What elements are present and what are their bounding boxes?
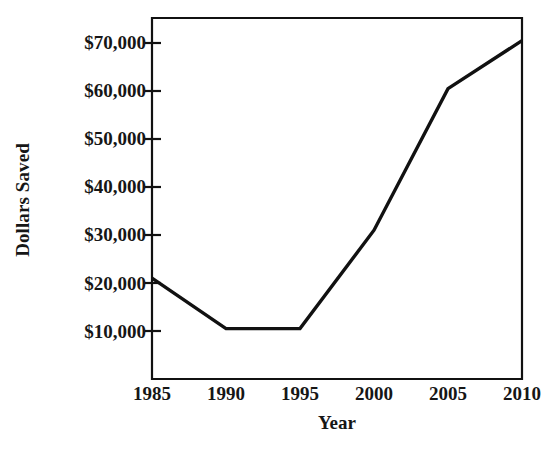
line-chart: Dollars Saved $70,000 $60,000 $50,000 $4… [0, 0, 545, 455]
x-axis-tick-labels: 1985 1990 1995 2000 2005 2010 [0, 383, 545, 413]
x-axis-title: Year [152, 412, 522, 434]
x-tick-label: 2010 [477, 383, 545, 405]
plot-background [152, 18, 522, 379]
